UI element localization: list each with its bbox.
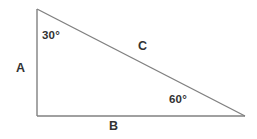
angle-label-bottom-right: 60° [169, 94, 187, 106]
side-label-c: C [138, 40, 147, 53]
side-label-a: A [16, 62, 25, 75]
geometry-figure: 30° 60° A B C [0, 0, 257, 139]
triangle-hypotenuse [37, 9, 245, 116]
right-triangle-shape [0, 0, 257, 139]
side-label-b: B [109, 120, 118, 133]
angle-label-top: 30° [42, 30, 60, 42]
